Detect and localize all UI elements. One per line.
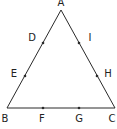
point-label-e: E [11, 69, 17, 79]
triangle-abc [7, 10, 115, 108]
point-d-marker [42, 42, 45, 45]
point-i-marker [78, 42, 81, 45]
point-label-d: D [28, 33, 36, 43]
triangle-figure [0, 0, 117, 129]
triangle-diagram: A B C D E F G H I [0, 0, 117, 129]
vertex-label-c: C [109, 114, 116, 124]
point-h-marker [96, 75, 99, 78]
point-g-marker [78, 107, 81, 110]
vertex-label-b: B [2, 114, 9, 124]
point-label-h: H [104, 69, 112, 79]
point-label-i: I [89, 33, 92, 43]
point-label-f: F [39, 114, 45, 124]
vertex-label-a: A [58, 0, 65, 8]
point-label-g: G [75, 114, 83, 124]
point-e-marker [24, 75, 27, 78]
point-f-marker [42, 107, 45, 110]
